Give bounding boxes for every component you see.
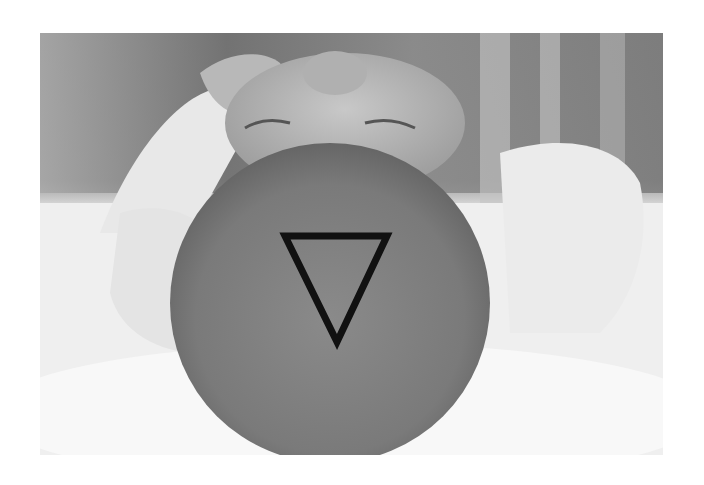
infant-head-photo [40, 33, 663, 455]
photo-illustration [40, 33, 663, 455]
